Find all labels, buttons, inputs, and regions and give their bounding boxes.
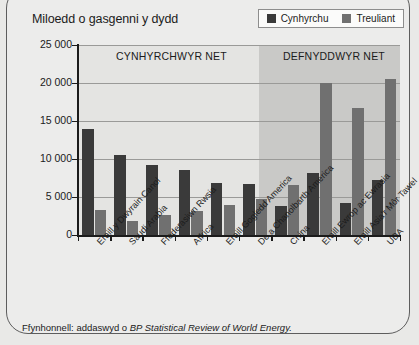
bar-production [82, 129, 94, 235]
zone-label-consumers: DEFNYDDWYR NET [283, 50, 385, 62]
y-axis-tick-label: 5 000 [46, 190, 72, 202]
legend-swatch-production [267, 14, 276, 23]
legend-swatch-consumption [342, 14, 351, 23]
source-italic: BP Statistical Review of World Energy. [130, 322, 292, 333]
legend-item-production: Cynhyrchu [267, 13, 329, 24]
zone-label-producers: CYNHYRCHWYR NET [116, 50, 227, 62]
y-axis-line [77, 44, 79, 236]
bar-consumption [320, 83, 332, 235]
source-prefix: Ffynhonnell: addaswyd o [22, 322, 127, 333]
y-axis-tick-label: 0 [66, 228, 72, 240]
y-axis-tick-label: 25 000 [40, 38, 72, 50]
chart-legend: Cynhyrchu Treuliant [258, 9, 404, 28]
x-axis-tick [78, 236, 79, 241]
y-axis-tick-label: 20 000 [40, 76, 72, 88]
legend-item-consumption: Treuliant [342, 13, 395, 24]
y-axis-labels: 05 00010 00015 00020 00025 000 [0, 0, 72, 345]
y-axis-tick-label: 10 000 [40, 152, 72, 164]
legend-label-production: Cynhyrchu [281, 13, 329, 24]
legend-label-consumption: Treuliant [356, 13, 395, 24]
gridline [78, 83, 400, 84]
source-note: Ffynhonnell: addaswyd o BP Statistical R… [22, 322, 292, 333]
gridline [78, 45, 400, 46]
y-axis-tick-label: 15 000 [40, 114, 72, 126]
